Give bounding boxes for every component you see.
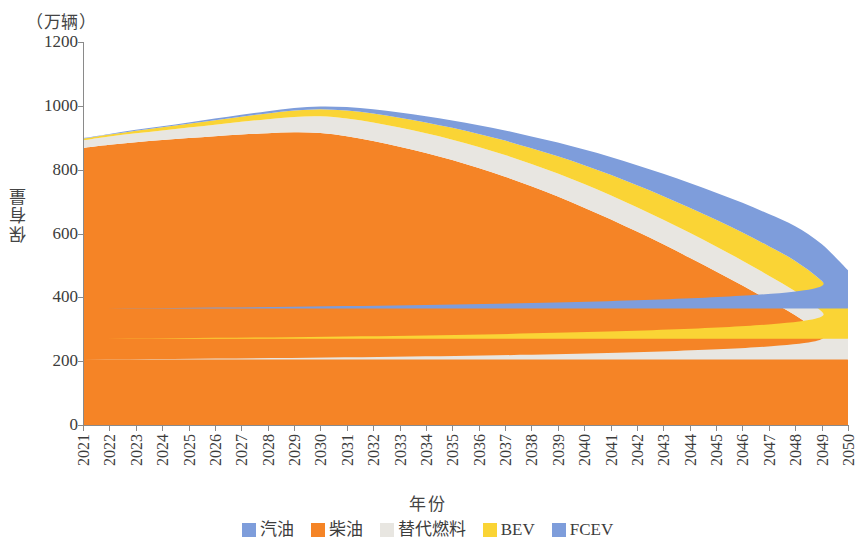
x-axis-tick-label: 2050 (840, 434, 855, 466)
x-axis-tick-label: 2044 (682, 434, 700, 466)
x-axis-tick-label: 2022 (101, 434, 119, 466)
x-axis-tick-label: 2043 (655, 434, 673, 466)
x-axis-tick-label: 2040 (576, 434, 594, 466)
x-axis-tick-labels: 2021202220232024202520262027202820292030… (0, 0, 855, 543)
x-axis-tick-label: 2024 (154, 434, 172, 466)
x-axis-tick-mark (611, 426, 612, 431)
x-axis-tick-mark (268, 426, 269, 431)
x-axis-tick-label: 2030 (312, 434, 330, 466)
x-axis-tick-mark (83, 426, 84, 431)
x-axis-tick-mark (241, 426, 242, 431)
x-axis-tick-label: 2035 (444, 434, 462, 466)
x-axis-tick-mark (663, 426, 664, 431)
x-axis-tick-label: 2031 (339, 434, 357, 466)
x-axis-tick-label: 2046 (734, 434, 752, 466)
x-axis-tick-label: 2039 (550, 434, 568, 466)
legend-item[interactable]: FCEV (552, 521, 613, 538)
chart-legend: 汽油柴油替代燃料BEVFCEV (0, 521, 855, 538)
x-axis-tick-mark (452, 426, 453, 431)
x-axis-tick-mark (742, 426, 743, 431)
x-axis-tick-mark (584, 426, 585, 431)
legend-item[interactable]: BEV (483, 521, 535, 538)
x-axis-tick-mark (822, 426, 823, 431)
x-axis-tick-mark (347, 426, 348, 431)
x-axis-tick-label: 2042 (629, 434, 647, 466)
legend-item[interactable]: 柴油 (311, 521, 363, 538)
x-axis-tick-mark (373, 426, 374, 431)
legend-swatch-icon (552, 523, 566, 537)
x-axis-tick-mark (690, 426, 691, 431)
x-axis-tick-label: 2041 (603, 434, 621, 466)
stacked-area-chart: （万辆） 保有量 020040060080010001200 202120222… (0, 0, 855, 543)
legend-swatch-icon (311, 523, 325, 537)
legend-item[interactable]: 汽油 (242, 521, 294, 538)
x-axis-tick-mark (769, 426, 770, 431)
x-axis-tick-mark (795, 426, 796, 431)
x-axis-tick-mark (162, 426, 163, 431)
x-axis-tick-label: 2048 (787, 434, 805, 466)
x-axis-tick-mark (505, 426, 506, 431)
x-axis-tick-label: 2037 (497, 434, 515, 466)
x-axis-tick-label: 2047 (761, 434, 779, 466)
x-axis-tick-mark (848, 426, 849, 431)
legend-label: 柴油 (329, 521, 363, 538)
x-axis-tick-label: 2023 (128, 434, 146, 466)
x-axis-tick-mark (320, 426, 321, 431)
x-axis-tick-mark (294, 426, 295, 431)
legend-label: 替代燃料 (398, 521, 466, 538)
x-axis-tick-label: 2028 (260, 434, 278, 466)
x-axis-tick-mark (637, 426, 638, 431)
legend-swatch-icon (483, 523, 497, 537)
x-axis-tick-label: 2027 (233, 434, 251, 466)
x-axis-tick-mark (479, 426, 480, 431)
x-axis-title: 年份 (0, 490, 855, 515)
x-axis-tick-mark (136, 426, 137, 431)
x-axis-tick-label: 2025 (181, 434, 199, 466)
legend-swatch-icon (380, 523, 394, 537)
x-axis-tick-mark (189, 426, 190, 431)
x-axis-tick-mark (215, 426, 216, 431)
x-axis-tick-mark (426, 426, 427, 431)
x-axis-tick-mark (400, 426, 401, 431)
x-axis-tick-label: 2034 (418, 434, 436, 466)
legend-item[interactable]: 替代燃料 (380, 521, 466, 538)
x-axis-tick-label: 2045 (708, 434, 726, 466)
x-axis-tick-mark (716, 426, 717, 431)
x-axis-tick-mark (531, 426, 532, 431)
x-axis-tick-mark (109, 426, 110, 431)
x-axis-tick-label: 2049 (814, 434, 832, 466)
legend-swatch-icon (242, 523, 256, 537)
x-axis-tick-label: 2032 (365, 434, 383, 466)
x-axis-tick-label: 2021 (75, 434, 93, 466)
x-axis-tick-label: 2029 (286, 434, 304, 466)
x-axis-tick-label: 2038 (523, 434, 541, 466)
legend-label: 汽油 (260, 521, 294, 538)
legend-label: FCEV (570, 521, 613, 538)
x-axis-tick-label: 2033 (392, 434, 410, 466)
x-axis-tick-label: 2026 (207, 434, 225, 466)
legend-label: BEV (501, 521, 535, 538)
x-axis-tick-mark (558, 426, 559, 431)
x-axis-tick-label: 2036 (471, 434, 489, 466)
